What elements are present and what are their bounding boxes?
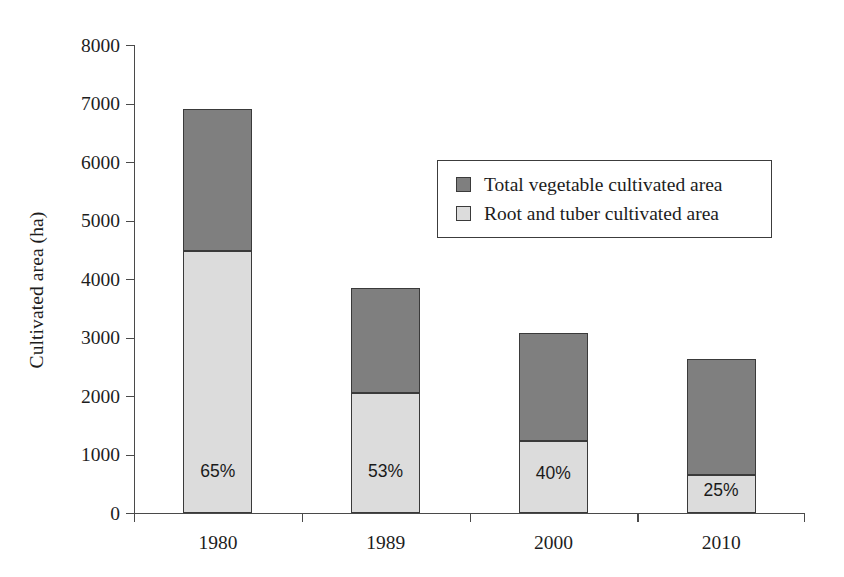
y-tick-label: 7000 (81, 93, 120, 115)
y-tick-label: 8000 (81, 35, 120, 57)
chart-legend: Total vegetable cultivated area Root and… (437, 160, 772, 238)
x-tick (134, 513, 135, 522)
y-tick-label: 5000 (81, 210, 120, 232)
legend-label-total-vegetable: Total vegetable cultivated area (484, 175, 722, 195)
y-tick-label: 6000 (81, 152, 120, 174)
y-tick: 0 (126, 513, 134, 514)
y-tick-label: 4000 (81, 269, 120, 291)
bar-segment-root-tuber-2000[interactable] (519, 441, 588, 513)
bar-group-2000[interactable]: 40% (519, 45, 588, 513)
bar-segment-root-tuber-1980[interactable] (183, 251, 252, 513)
bar-segment-root-tuber-1989[interactable] (351, 393, 420, 514)
stacked-bar-chart: Cultivated area (ha) 0100020003000400050… (0, 0, 844, 577)
x-tick (470, 513, 471, 522)
y-tick: 4000 (126, 279, 134, 280)
bar-group-1980[interactable]: 65% (183, 45, 252, 513)
legend-item-root-tuber: Root and tuber cultivated area (456, 199, 771, 228)
x-tick-label-1989: 1989 (366, 532, 405, 554)
y-tick-label: 0 (110, 503, 120, 525)
x-tick (804, 513, 805, 522)
plot-area: 010002000300040005000600070008000 198019… (134, 45, 805, 513)
y-tick: 2000 (126, 396, 134, 397)
y-tick: 3000 (126, 338, 134, 339)
bar-segment-total-vegetable-2010[interactable] (687, 359, 756, 475)
bar-group-1989[interactable]: 53% (351, 45, 420, 513)
x-tick-label-2000: 2000 (534, 532, 573, 554)
y-tick-label: 1000 (81, 444, 120, 466)
x-tick (637, 513, 638, 522)
bar-segment-total-vegetable-2000[interactable] (519, 333, 588, 441)
legend-item-total-vegetable: Total vegetable cultivated area (456, 170, 771, 199)
y-tick: 5000 (126, 221, 134, 222)
bar-segment-total-vegetable-1989[interactable] (351, 288, 420, 393)
x-tick (302, 513, 303, 522)
y-tick-label: 2000 (81, 386, 120, 408)
y-tick: 8000 (126, 45, 134, 46)
legend-label-root-tuber: Root and tuber cultivated area (484, 204, 719, 224)
y-tick: 7000 (126, 104, 134, 105)
bar-segment-root-tuber-2010[interactable] (687, 475, 756, 513)
legend-swatch-icon-total-vegetable (456, 177, 471, 192)
bar-group-2010[interactable]: 25% (687, 45, 756, 513)
y-tick: 6000 (126, 162, 134, 163)
x-tick-label-1980: 1980 (198, 532, 237, 554)
y-axis-line (134, 45, 135, 513)
y-axis-title: Cultivated area (ha) (26, 30, 66, 550)
x-tick-label-2010: 2010 (702, 532, 741, 554)
legend-swatch-icon-root-tuber (456, 206, 471, 221)
y-tick: 1000 (126, 455, 134, 456)
y-tick-label: 3000 (81, 327, 120, 349)
bar-segment-total-vegetable-1980[interactable] (183, 109, 252, 251)
